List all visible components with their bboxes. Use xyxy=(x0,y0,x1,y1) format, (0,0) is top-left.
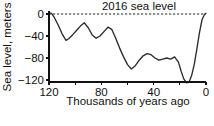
sea-level-series-line xyxy=(49,13,206,83)
y-axis-tick-labels: 0−40−80−120 xyxy=(18,8,44,86)
y-tick-label: −40 xyxy=(24,30,44,42)
y-axis-title: Sea level, meters xyxy=(1,2,13,91)
y-tick-label: −80 xyxy=(24,52,44,64)
y-tick-label: 0 xyxy=(38,8,44,20)
x-tick-label: 0 xyxy=(203,86,209,98)
sea-level-chart-figure: 0−40−80−120 12080400 Sea level, meters T… xyxy=(0,0,214,126)
2016-sea-level-annotation-label: 2016 sea level xyxy=(102,0,176,12)
x-tick-label: 120 xyxy=(39,86,58,98)
chart-svg: 0−40−80−120 12080400 Sea level, meters T… xyxy=(0,0,214,126)
y-tick-label: −120 xyxy=(18,74,44,86)
x-axis-title: Thousands of years ago xyxy=(66,95,189,107)
